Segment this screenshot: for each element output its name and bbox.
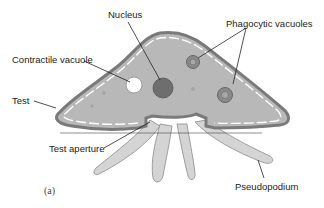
leader-test: [34, 101, 56, 108]
phagocytic-vacuole-2: [218, 88, 233, 103]
label-pseudopodium: Pseudopodium: [235, 182, 298, 192]
leader-phagocytic-1: [198, 28, 246, 58]
label-phagocytic-vacuoles: Phagocytic vacuoles: [226, 19, 313, 29]
diagram-drawing: [0, 0, 324, 208]
amoeba-diagram: Nucleus Contractile vacuole Phagocytic v…: [0, 0, 324, 208]
pseudopodium-center-right: [177, 124, 195, 180]
label-test-aperture: Test aperture: [49, 144, 104, 154]
test-outline: [56, 32, 288, 129]
contractile-vacuole: [126, 77, 142, 93]
phagocytic-vacuole-1: [187, 56, 200, 69]
nucleus: [153, 78, 173, 98]
test-body: [56, 32, 288, 129]
label-nucleus: Nucleus: [108, 10, 142, 20]
panel-label: (a): [44, 186, 55, 196]
label-contractile-vacuole: Contractile vacuole: [12, 55, 93, 65]
label-test: Test: [12, 96, 29, 106]
